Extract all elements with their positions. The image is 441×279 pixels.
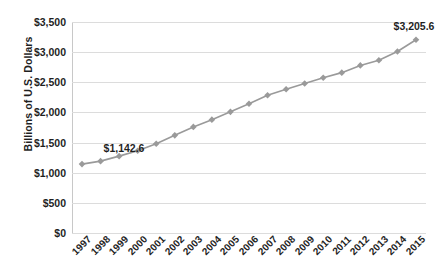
y-axis-tick-label: $0	[54, 227, 66, 239]
y-axis-tick-label: $1,000	[34, 167, 66, 179]
x-axis-tick-label: 2005	[218, 234, 242, 258]
x-axis-tick-label: 2009	[292, 234, 316, 258]
x-axis-tick-label: 1999	[107, 234, 131, 258]
x-axis-tick-label: 2000	[125, 234, 149, 258]
data-point-marker	[97, 158, 104, 165]
data-point-marker	[301, 80, 308, 87]
x-axis-tick-label: 2001	[144, 234, 168, 258]
x-axis-tick-label: 2014	[385, 234, 409, 258]
data-point-marker	[209, 116, 216, 123]
data-point-marker	[190, 124, 197, 131]
x-axis-tick-label: 2007	[255, 234, 279, 258]
x-axis-tick-label: 2002	[162, 234, 186, 258]
data-point-marker	[153, 140, 160, 147]
data-series	[72, 22, 426, 233]
data-point-marker	[376, 57, 383, 64]
y-axis-tick-label: $3,000	[34, 46, 66, 58]
x-axis-tick-label: 2012	[348, 234, 372, 258]
x-axis-tick-label: 1997	[70, 234, 94, 258]
data-point-marker	[171, 132, 178, 139]
x-axis-tick-label: 2013	[367, 234, 391, 258]
y-axis-tick-label: $500	[43, 197, 66, 209]
x-axis-tick-label: 2006	[237, 234, 261, 258]
data-point-value-label: $1,142.6	[104, 142, 145, 154]
y-axis-title: Billions of U.S. Dollars	[22, 14, 34, 174]
x-axis-tick-label: 2008	[274, 234, 298, 258]
data-point-marker	[283, 86, 290, 93]
x-axis-tick-label: 2010	[311, 234, 335, 258]
y-axis-tick-label: $2,500	[34, 76, 66, 88]
x-axis-tick-label: 2011	[330, 234, 353, 257]
data-point-marker	[227, 109, 234, 116]
x-axis-tick-label: 2015	[404, 234, 428, 258]
data-point-marker	[79, 161, 86, 168]
data-point-marker	[264, 92, 271, 99]
x-axis-tick-label: 2003	[181, 234, 205, 258]
x-axis-tick-label: 2004	[200, 234, 224, 258]
x-axis-tick-label: 1998	[88, 234, 112, 258]
data-point-marker	[320, 74, 327, 81]
y-axis-tick-label: $1,500	[34, 137, 66, 149]
y-axis-tick-label: $2,000	[34, 106, 66, 118]
line-chart: Billions of U.S. Dollars $0$500$1,000$1,…	[0, 0, 441, 279]
gridline	[72, 233, 426, 234]
data-point-marker	[357, 62, 364, 69]
data-point-marker	[246, 100, 253, 107]
data-point-value-label: $3,205.6	[394, 20, 435, 32]
data-point-marker	[338, 69, 345, 76]
plot-area: $0$500$1,000$1,500$2,000$2,500$3,000$3,5…	[72, 22, 426, 233]
y-axis-tick-label: $3,500	[34, 16, 66, 28]
